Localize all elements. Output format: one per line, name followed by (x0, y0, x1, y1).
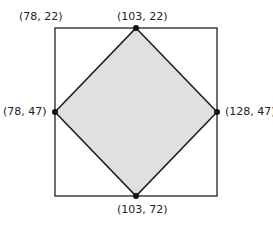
vertex-left (52, 109, 58, 115)
label-top-left-corner: (78, 22) (19, 11, 63, 23)
label-top-vertex: (103, 22) (117, 11, 168, 23)
label-left-vertex: (78, 47) (3, 106, 47, 118)
label-bottom-vertex: (103, 72) (117, 204, 168, 216)
vertex-right (214, 109, 220, 115)
diamond (55, 28, 217, 196)
label-right-vertex: (128, 47) (225, 106, 273, 118)
vertex-bottom (133, 193, 139, 199)
vertex-top (133, 25, 139, 31)
